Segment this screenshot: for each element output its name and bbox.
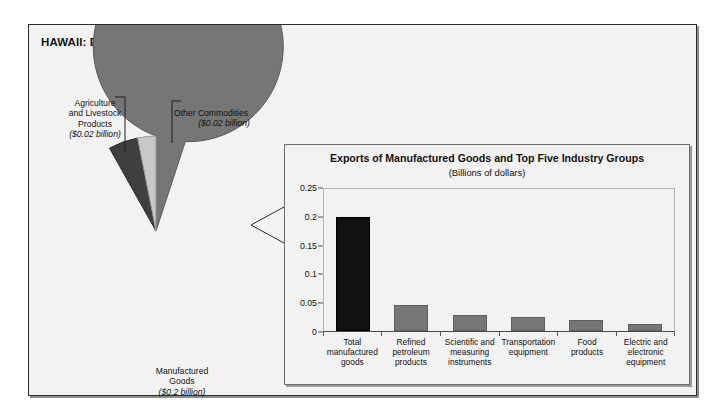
x-label-transportation-equipment: Transportation equipment — [499, 337, 558, 368]
y-tick-label-0: 0 — [312, 327, 317, 337]
bar-transportation-equipment[interactable] — [511, 317, 545, 331]
bar-electric-electronic-equipment[interactable] — [628, 324, 662, 331]
y-tick-label-3: 0.15 — [300, 241, 317, 251]
x-label-food-products: Food products — [558, 337, 617, 368]
figure-frame: HAWAII: Exports of Goods, 1999 Agricultu… — [28, 24, 697, 396]
bar-refined-petroleum-products[interactable] — [394, 305, 428, 331]
x-label-refined-petroleum-products: Refined petroleum products — [382, 337, 441, 368]
bar-series — [324, 189, 674, 331]
bar-total-manufactured-goods[interactable] — [336, 217, 370, 331]
bar-chart-subtitle: (Billions of dollars) — [285, 167, 689, 178]
bar-cell-4 — [557, 189, 615, 331]
x-axis-labels: Total manufactured goods Refined petrole… — [323, 337, 675, 368]
y-tick-label-1: 0.05 — [300, 298, 317, 308]
x-tick-mark-4 — [557, 332, 558, 336]
plot-area — [323, 188, 675, 332]
x-label-electric-electronic-equipment: Electric and electronic equipment — [616, 337, 675, 368]
y-tick-label-5: 0.25 — [300, 183, 317, 193]
x-label-scientific-measuring-instruments: Scientific and measuring instruments — [440, 337, 499, 368]
bar-cell-1 — [382, 189, 440, 331]
x-tick-mark-3 — [499, 332, 500, 336]
bar-chart-panel: Exports of Manufactured Goods and Top Fi… — [284, 144, 690, 385]
callout-wedge-icon — [251, 207, 284, 243]
x-tick-mark-2 — [440, 332, 441, 336]
x-tick-mark-5 — [616, 332, 617, 336]
y-tick-label-2: 0.1 — [305, 269, 317, 279]
bar-cell-5 — [616, 189, 674, 331]
bar-cell-0 — [324, 189, 382, 331]
x-tick-mark-6 — [674, 332, 675, 336]
y-axis: 0 0.05 0.1 0.15 0.2 0.25 — [285, 188, 323, 332]
x-tick-mark-0 — [323, 332, 324, 336]
x-tick-mark-1 — [381, 332, 382, 336]
bar-cell-3 — [499, 189, 557, 331]
bar-chart-title: Exports of Manufactured Goods and Top Fi… — [285, 152, 689, 164]
y-tick-label-4: 0.2 — [305, 212, 317, 222]
figure-page: HAWAII: Exports of Goods, 1999 Agricultu… — [0, 0, 721, 420]
bar-food-products[interactable] — [569, 320, 603, 331]
x-label-total-manufactured-goods: Total manufactured goods — [323, 337, 382, 368]
bar-scientific-measuring-instruments[interactable] — [453, 315, 487, 331]
bar-cell-2 — [441, 189, 499, 331]
